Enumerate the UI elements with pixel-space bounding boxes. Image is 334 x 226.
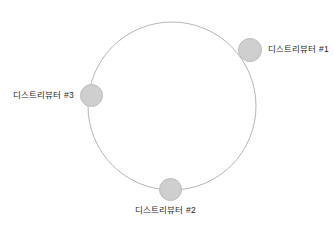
ring-topology-diagram: 디스트리뷰터 #1 디스트리뷰터 #2 디스트리뷰터 #3 [0,0,334,226]
distributor-node-2[interactable] [159,178,182,201]
distributor-node-2-label: 디스트리뷰터 #2 [135,205,196,216]
distributor-node-3-label: 디스트리뷰터 #3 [13,90,74,101]
distributor-node-1-label: 디스트리뷰터 #1 [268,44,329,55]
distributor-node-1[interactable] [238,38,262,62]
ring-circle [88,22,256,190]
distributor-node-3[interactable] [80,84,103,107]
